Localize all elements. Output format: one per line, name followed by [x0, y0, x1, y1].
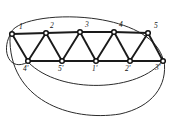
edge-4-2p — [114, 32, 130, 61]
vertex-1[interactable] — [10, 32, 15, 37]
vertex-label-1-prime: 1' — [92, 64, 98, 73]
vertex-label-5-prime: 5' — [58, 64, 64, 73]
vertex-label-4-prime: 4' — [23, 64, 29, 73]
vertex-label-5: 5 — [154, 21, 158, 30]
edge-3-1p — [80, 32, 96, 61]
vertex-3[interactable] — [78, 30, 83, 35]
graph-figure: 1 2 3 4 5 4' 5' 1' 2' 3' — [0, 0, 173, 122]
top-vertex-labels: 1 2 3 4 5 — [19, 20, 158, 31]
vertex-4[interactable] — [112, 30, 117, 35]
edge-4-1p — [96, 32, 114, 61]
diagonal-edges — [12, 32, 163, 61]
edge-5-2p — [130, 33, 148, 61]
vertex-4-prime[interactable] — [26, 59, 31, 64]
vertex-label-2-prime: 2' — [125, 64, 131, 73]
arc-outer-bottom-icon — [10, 36, 165, 116]
vertex-5[interactable] — [146, 31, 151, 36]
vertex-label-3-prime: 3' — [154, 63, 161, 72]
vertex-5-prime[interactable] — [60, 59, 65, 64]
edge-2-5p — [46, 33, 62, 61]
bottom-vertex-labels: 4' 5' 1' 2' 3' — [23, 63, 161, 73]
vertex-3-prime[interactable] — [161, 59, 166, 64]
vertex-1-prime[interactable] — [94, 59, 99, 64]
edge-2-4p — [28, 33, 46, 61]
vertex-label-1: 1 — [19, 22, 23, 31]
edge-1-4p — [12, 34, 28, 61]
vertex-2-prime[interactable] — [128, 59, 133, 64]
edge-5-3p — [148, 33, 163, 61]
vertex-label-3: 3 — [84, 20, 89, 29]
edge-3-5p — [62, 32, 80, 61]
diagram-canvas: 1 2 3 4 5 4' 5' 1' 2' 3' — [0, 0, 173, 122]
vertex-label-4: 4 — [119, 20, 123, 29]
vertex-2[interactable] — [44, 31, 49, 36]
vertex-label-2: 2 — [50, 21, 54, 30]
